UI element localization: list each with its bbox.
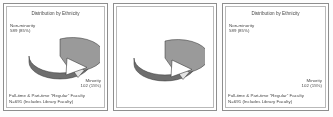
chart-title: Distribution by Ethnicity bbox=[4, 11, 107, 16]
chart-caption: Full-time & Part-time "Regular" Faculty … bbox=[9, 93, 85, 104]
caption-line-1: Full-time & Part-time "Regular" Faculty bbox=[9, 93, 85, 98]
slice-label-minority-value: 102 (15%) bbox=[302, 83, 322, 88]
slice-label-non-minority-value: 589 (85%) bbox=[229, 28, 254, 33]
chart-caption: Full-time & Part-time "Regular" Faculty … bbox=[228, 93, 304, 104]
slice-label-minority: Minority 102 (15%) bbox=[81, 78, 101, 88]
slice-label-minority: Minority 102 (15%) bbox=[302, 78, 322, 88]
pie-svg bbox=[131, 33, 205, 89]
chart-panel-text-only: Distribution by Ethnicity Non-minority 5… bbox=[222, 3, 329, 111]
slice-label-minority-value: 102 (15%) bbox=[81, 83, 101, 88]
slice-label-non-minority: Non-minority 589 (85%) bbox=[229, 23, 254, 33]
pie-chart-graphic bbox=[131, 33, 205, 89]
chart-panel-graphic-only bbox=[113, 3, 217, 111]
caption-line-1: Full-time & Part-time "Regular" Faculty bbox=[228, 93, 304, 98]
caption-line-2: N=691 (Includes Library Faculty) bbox=[228, 99, 304, 104]
figure-strip: Distribution by Ethnicity Non-minority 5… bbox=[0, 0, 333, 117]
chart-title: Distribution by Ethnicity bbox=[223, 11, 328, 16]
caption-line-2: N=691 (Includes Library Faculty) bbox=[9, 99, 85, 104]
chart-panel-full: Distribution by Ethnicity Non-minority 5… bbox=[3, 3, 108, 111]
